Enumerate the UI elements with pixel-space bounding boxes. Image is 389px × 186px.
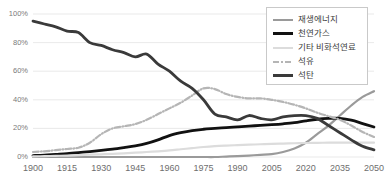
legend-item-1[interactable]: 천연가스	[273, 27, 330, 40]
chart-legend: 재생에너지천연가스기타 비화석연료석유석탄	[266, 7, 368, 85]
legend-label: 기타 비화석연료	[298, 43, 356, 52]
series-line-1	[33, 118, 374, 155]
x-tick-label: 1975	[187, 163, 221, 173]
legend-swatch-icon	[273, 47, 293, 49]
x-tick-label: 2020	[289, 163, 323, 173]
legend-label: 석유	[298, 57, 314, 66]
x-tick-label: 2035	[323, 163, 357, 173]
x-tick-label: 1915	[50, 163, 84, 173]
y-tick-label: 0%	[2, 153, 28, 161]
y-tick-label: 80%	[2, 39, 28, 47]
legend-item-3[interactable]: 석유	[273, 55, 314, 68]
legend-swatch-icon	[273, 61, 293, 63]
x-tick-label: 1945	[118, 163, 152, 173]
legend-swatch-icon	[273, 74, 293, 77]
x-tick-label: 1930	[84, 163, 118, 173]
x-tick-label: 1990	[221, 163, 255, 173]
legend-swatch-icon	[273, 19, 293, 21]
y-tick-label: 100%	[2, 10, 28, 18]
x-tick-label: 2005	[255, 163, 289, 173]
legend-item-2[interactable]: 기타 비화석연료	[273, 41, 356, 54]
x-tick-label: 2050	[357, 163, 389, 173]
legend-label: 천연가스	[298, 29, 330, 38]
x-tick-label: 1960	[152, 163, 186, 173]
y-tick-label: 40%	[2, 96, 28, 104]
y-tick-label: 60%	[2, 67, 28, 75]
legend-item-4[interactable]: 석탄	[273, 69, 314, 82]
legend-label: 재생에너지	[298, 15, 338, 24]
x-tick-label: 1900	[16, 163, 50, 173]
legend-label: 석탄	[298, 71, 314, 80]
y-tick-label: 20%	[2, 124, 28, 132]
legend-swatch-icon	[273, 32, 293, 35]
legend-item-0[interactable]: 재생에너지	[273, 13, 338, 26]
